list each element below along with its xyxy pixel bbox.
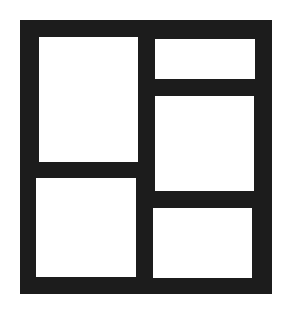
- pane-right-middle: [155, 96, 254, 191]
- pane-left-bottom: [36, 178, 136, 277]
- pane-right-top: [155, 39, 255, 79]
- pane-left-top: [39, 37, 138, 162]
- pane-right-bottom: [153, 208, 252, 278]
